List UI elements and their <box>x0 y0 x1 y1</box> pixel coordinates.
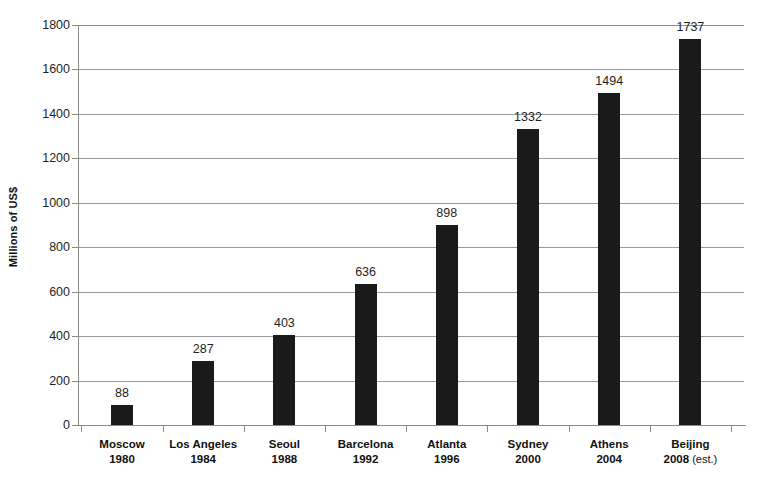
bar <box>517 129 539 425</box>
gridline <box>78 247 744 248</box>
gridline <box>78 25 744 26</box>
gridline <box>78 336 744 337</box>
x-axis-tick <box>731 426 732 432</box>
x-axis-category-year: 1996 <box>427 452 466 467</box>
gridline <box>78 69 744 70</box>
x-axis-tick <box>244 426 245 432</box>
bar-value-label: 1332 <box>514 110 542 124</box>
x-axis-line <box>78 425 746 426</box>
bar-value-label: 1494 <box>595 74 623 88</box>
x-axis-category-label: Beijing2008 (est.) <box>664 437 718 467</box>
x-axis-tick <box>487 426 488 432</box>
bar-value-label: 88 <box>115 386 129 400</box>
x-axis-category-year: 1992 <box>338 452 394 467</box>
bar <box>192 361 214 425</box>
bar-value-label: 636 <box>355 265 376 279</box>
gridline <box>78 381 744 382</box>
x-axis-category-label: Athens2004 <box>590 437 629 467</box>
bar <box>598 93 620 425</box>
y-axis-tick-label: 0 <box>8 418 70 432</box>
y-axis-tick-label: 1600 <box>8 62 70 76</box>
x-axis-category-label: Atlanta1996 <box>427 437 466 467</box>
bar <box>111 405 133 425</box>
y-axis-tick-labels: 020040060080010001200140016001800 <box>0 0 70 491</box>
plot-area <box>78 25 745 425</box>
x-axis-category-label: Barcelona1992 <box>338 437 394 467</box>
y-axis-tick-label: 1800 <box>8 18 70 32</box>
y-axis-tick-label: 200 <box>8 374 70 388</box>
y-axis-tick-label: 800 <box>8 240 70 254</box>
bar-value-label: 403 <box>274 316 295 330</box>
gridline <box>78 203 744 204</box>
bar <box>436 225 458 425</box>
x-axis-category-year: 2008 (est.) <box>664 452 718 467</box>
y-axis-tick-label: 1400 <box>8 107 70 121</box>
gridline <box>78 114 744 115</box>
x-axis-category-city: Athens <box>590 437 629 452</box>
y-axis-tick-label: 1200 <box>8 151 70 165</box>
x-axis-category-label: Los Angeles1984 <box>169 437 237 467</box>
bar-value-label: 1737 <box>676 20 704 34</box>
x-axis-category-year: 2000 <box>508 452 549 467</box>
gridline <box>78 158 744 159</box>
gridline <box>78 292 744 293</box>
x-axis-category-year: 1988 <box>269 452 300 467</box>
x-axis-category-note: (est.) <box>689 453 717 465</box>
x-axis-tick <box>406 426 407 432</box>
x-axis-category-label: Seoul1988 <box>269 437 300 467</box>
y-axis-tick-label: 1000 <box>8 196 70 210</box>
x-axis-category-year: 1984 <box>169 452 237 467</box>
bar <box>273 335 295 425</box>
x-axis-tick <box>81 426 82 432</box>
x-axis-category-label: Sydney2000 <box>508 437 549 467</box>
bar-value-label: 287 <box>193 342 214 356</box>
x-axis-category-city: Sydney <box>508 437 549 452</box>
bar <box>679 39 701 425</box>
x-axis-tick <box>650 426 651 432</box>
bar <box>355 284 377 425</box>
x-axis-category-city: Barcelona <box>338 437 394 452</box>
x-axis-category-year: 1980 <box>99 452 144 467</box>
bar-value-label: 898 <box>436 206 457 220</box>
y-axis-tick-label: 600 <box>8 285 70 299</box>
x-axis-category-city: Los Angeles <box>169 437 237 452</box>
x-axis-category-city: Seoul <box>269 437 300 452</box>
y-axis-tick-label: 400 <box>8 329 70 343</box>
x-axis-tick <box>325 426 326 432</box>
y-axis-line <box>78 25 79 426</box>
x-axis-category-city: Beijing <box>664 437 718 452</box>
bar-chart-figure: Millions of US$ 020040060080010001200140… <box>0 0 765 491</box>
x-axis-category-city: Atlanta <box>427 437 466 452</box>
x-axis-category-label: Moscow1980 <box>99 437 144 467</box>
x-axis-category-city: Moscow <box>99 437 144 452</box>
x-axis-tick <box>163 426 164 432</box>
x-axis-category-year: 2004 <box>590 452 629 467</box>
x-axis-tick <box>569 426 570 432</box>
